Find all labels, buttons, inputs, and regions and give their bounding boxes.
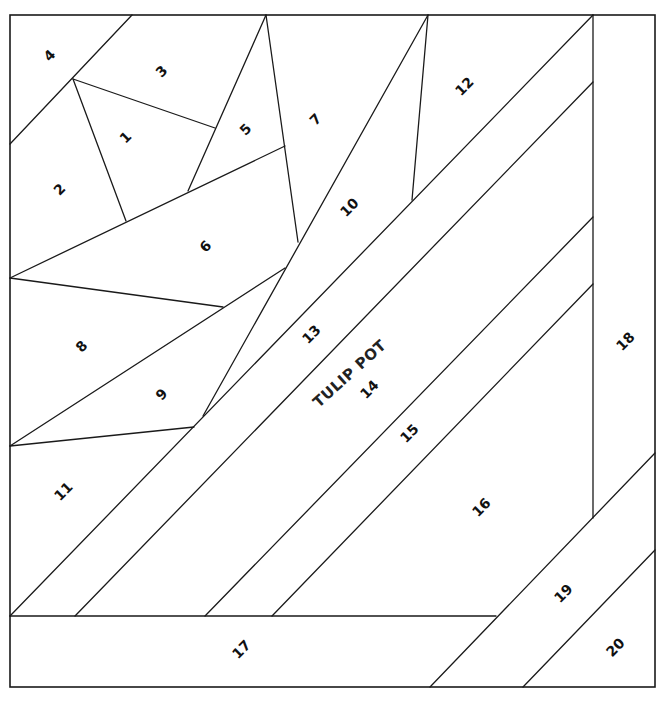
seam-5-3 [188,15,266,191]
piece-number-4: 4 [40,46,58,64]
seam-8-9 [10,268,285,446]
seam-4 [10,15,132,144]
piece-number-17: 17 [229,637,254,662]
seam-9-11 [10,427,194,446]
piece-number-10: 10 [337,195,362,220]
piece-number-7: 7 [306,110,324,128]
piece-number-14: 14 [357,377,382,402]
piece-number-5: 5 [236,120,254,138]
piece-number-13: 13 [299,322,324,347]
seam-8-top [10,278,223,307]
piece-number-1: 1 [116,128,134,146]
piece-labels: 1234567891011121314151617181920 [40,46,638,662]
piece-number-12: 12 [452,74,477,99]
seam-13-14 [75,82,593,616]
seam-1-3 [73,79,215,128]
tulip-pot-foundation-pattern: 1234567891011121314151617181920 TULIP PO… [0,0,658,704]
seam-1-2 [73,79,126,221]
seam-12 [412,15,428,200]
pattern-title: TULIP POT [309,336,390,411]
seam-7-left [266,15,298,242]
seam-6 [10,146,285,278]
piece-number-16: 16 [469,495,494,520]
piece-number-18: 18 [613,329,638,354]
piece-number-15: 15 [397,421,422,446]
seam-14-15 [205,217,593,616]
piece-number-6: 6 [196,237,214,255]
seam-7-10 [203,15,428,416]
piece-number-8: 8 [72,337,90,355]
seam-13-left [10,15,593,616]
piece-number-3: 3 [152,62,170,80]
piece-number-11: 11 [51,479,76,504]
piece-number-9: 9 [152,385,170,403]
piece-number-19: 19 [551,581,576,606]
piece-number-2: 2 [50,180,68,198]
piece-number-20: 20 [603,635,628,660]
